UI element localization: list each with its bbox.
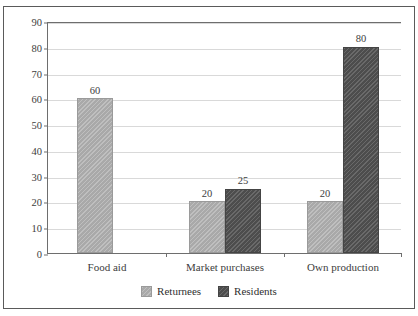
legend-label: Returnees	[157, 286, 201, 297]
y-tick-label: 20	[32, 198, 43, 209]
bar-returnees[interactable]: 60	[77, 98, 113, 253]
bar-residents[interactable]: 25	[225, 189, 261, 253]
x-category-label: Market purchases	[186, 262, 264, 273]
y-tick-label: 30	[32, 172, 43, 183]
x-tick-mark	[166, 253, 167, 257]
bar-residents[interactable]: 80	[343, 47, 379, 253]
y-tick-mark	[44, 255, 48, 256]
x-category-label: Food aid	[88, 262, 127, 273]
y-tick-label: 0	[37, 250, 42, 261]
bar-group: 60 Food aid	[48, 23, 166, 253]
y-tick-label: 60	[32, 95, 43, 106]
x-category-label: Own production	[307, 262, 379, 273]
bar-group: 20 80 Own production	[284, 23, 402, 253]
y-tick-label: 50	[32, 121, 43, 132]
x-tick-mark	[284, 253, 285, 257]
y-tick-label: 40	[32, 147, 43, 158]
y-tick-label: 70	[32, 69, 43, 80]
bar-value-label: 60	[90, 86, 101, 97]
legend-entry-returnees[interactable]: Returnees	[141, 286, 201, 297]
bar-group: 20 25 Market purchases	[166, 23, 284, 253]
chart-figure: 90 80 70 60 50 40 30 20 10	[3, 6, 415, 309]
clipped-text-above	[0, 0, 418, 5]
light-gray-swatch-icon	[141, 286, 152, 297]
dark-gray-swatch-icon	[218, 286, 229, 297]
y-tick-label: 90	[32, 18, 43, 29]
x-tick-mark	[401, 253, 402, 257]
bar-value-label: 20	[320, 189, 331, 200]
y-tick-label: 80	[32, 44, 43, 55]
plot-wrapper: 90 80 70 60 50 40 30 20 10	[4, 7, 414, 261]
legend-label: Residents	[234, 286, 277, 297]
bar-value-label: 80	[356, 34, 367, 45]
bar-value-label: 25	[238, 176, 249, 187]
plot-area: 90 80 70 60 50 40 30 20 10	[47, 22, 401, 254]
y-tick-label: 10	[32, 224, 43, 235]
legend-entry-residents[interactable]: Residents	[218, 286, 277, 297]
bar-returnees[interactable]: 20	[307, 201, 343, 253]
bar-returnees[interactable]: 20	[189, 201, 225, 253]
chart-legend: Returnees Residents	[4, 286, 414, 297]
bar-value-label: 20	[202, 189, 213, 200]
